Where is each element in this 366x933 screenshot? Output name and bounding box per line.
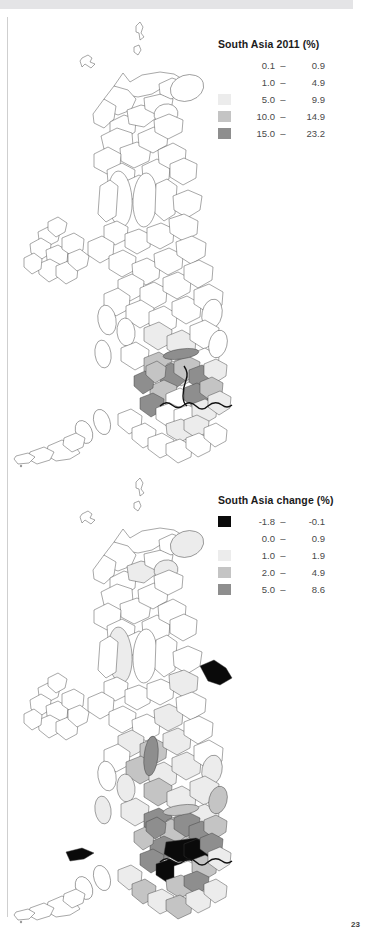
legend-row[interactable]: 5.0 – 8.6 [218, 581, 352, 597]
legend-dash: – [275, 77, 291, 88]
legend-swatch [218, 77, 231, 88]
legend-swatch [218, 584, 231, 595]
legend-high-value: 23.2 [291, 128, 325, 139]
legend-high-value: 0.9 [291, 533, 325, 544]
scotland-cells [93, 526, 207, 683]
legend-dash: – [275, 94, 291, 105]
legend-high-value: 0.9 [291, 60, 325, 71]
map-panel-south-asia-change: South Asia change (%) -1.8 – -0.1 0.0 – … [0, 470, 366, 930]
legend-row[interactable]: 2.0 – 4.9 [218, 564, 352, 580]
legend-row[interactable]: 5.0 – 9.9 [218, 91, 352, 107]
legend-dash: – [275, 584, 291, 595]
legend-row[interactable]: 0.0 – 0.9 [218, 530, 352, 546]
legend-row[interactable]: 1.0 – 1.9 [218, 547, 352, 563]
northern-ireland-cells [24, 673, 89, 740]
legend-title: South Asia 2011 (%) [218, 38, 352, 50]
legend-row[interactable]: -1.8 – -0.1 [218, 513, 352, 529]
legend-dash: – [275, 60, 291, 71]
legend-row[interactable]: 0.1 – 0.9 [218, 57, 352, 73]
legend-row[interactable]: 1.0 – 4.9 [218, 74, 352, 90]
legend-dash: – [275, 128, 291, 139]
legend-low-value: 0.1 [241, 60, 275, 71]
scotland-cells [93, 70, 207, 227]
legend-low-value: 0.0 [241, 533, 275, 544]
legend-swatch [218, 550, 231, 561]
legend-swatch [218, 128, 231, 139]
page-number: 23 [351, 920, 360, 929]
legend-swatch [218, 111, 231, 122]
legend-swatch [218, 94, 231, 105]
page-top-bar [0, 0, 353, 9]
legend-row[interactable]: 10.0 – 14.9 [218, 108, 352, 124]
legend-low-value: 2.0 [241, 567, 275, 578]
legend-high-value: -0.1 [291, 516, 325, 527]
legend-south-asia-2011: South Asia 2011 (%) 0.1 – 0.9 1.0 – 4.9 … [218, 38, 352, 142]
legend-high-value: 8.6 [291, 584, 325, 595]
legend-high-value: 4.9 [291, 567, 325, 578]
legend-high-value: 1.9 [291, 550, 325, 561]
legend-low-value: 1.0 [241, 550, 275, 561]
legend-low-value: 5.0 [241, 94, 275, 105]
legend-row[interactable]: 15.0 – 23.2 [218, 125, 352, 141]
northern-isles-outline [80, 478, 144, 524]
legend-swatch [218, 60, 231, 71]
legend-swatch [218, 533, 231, 544]
legend-high-value: 4.9 [291, 77, 325, 88]
legend-dash: – [275, 533, 291, 544]
legend-low-value: 5.0 [241, 584, 275, 595]
legend-low-value: 10.0 [241, 111, 275, 122]
legend-dash: – [275, 567, 291, 578]
legend-low-value: -1.8 [241, 516, 275, 527]
northern-ireland-cells [24, 217, 89, 284]
legend-low-value: 15.0 [241, 128, 275, 139]
legend-dash: – [275, 550, 291, 561]
legend-south-asia-change: South Asia change (%) -1.8 – -0.1 0.0 – … [218, 494, 352, 598]
legend-dash: – [275, 111, 291, 122]
map-panel-south-asia-2011: South Asia 2011 (%) 0.1 – 0.9 1.0 – 4.9 … [0, 14, 366, 469]
legend-high-value: 14.9 [291, 111, 325, 122]
legend-swatch [218, 516, 231, 527]
legend-dash: – [275, 516, 291, 527]
legend-title: South Asia change (%) [218, 494, 352, 506]
legend-swatch [218, 567, 231, 578]
legend-high-value: 9.9 [291, 94, 325, 105]
legend-low-value: 1.0 [241, 77, 275, 88]
northern-isles-outline [80, 22, 144, 68]
